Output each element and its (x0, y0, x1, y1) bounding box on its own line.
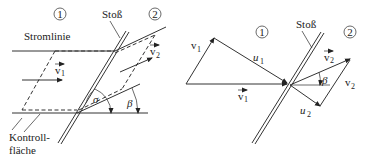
sigma-label: σ (93, 93, 99, 105)
u1-label: u 1 (253, 51, 264, 66)
left-control-volume-diagram: 1 2 Stoß Stromlinie v 1 v (9, 8, 166, 156)
upper-streamline-downstream (115, 27, 166, 51)
shock-line-b (255, 33, 324, 144)
svg-text:1: 1 (197, 45, 201, 54)
svg-text:1: 1 (260, 57, 264, 66)
control-surface-label-1: Kontroll- (9, 131, 50, 143)
u2-arrow (290, 85, 320, 106)
vec-v1-label: v 1 (238, 90, 248, 104)
control-surface-label-2: fläche (9, 144, 36, 156)
svg-text:u: u (253, 51, 259, 63)
svg-text:1: 1 (244, 95, 248, 104)
control-volume-top-right (115, 35, 155, 53)
svg-text:2: 2 (351, 82, 355, 91)
oblique-shock-diagram: 1 2 Stoß Stromlinie v 1 v (0, 0, 367, 161)
v1-vector-label: v 1 (55, 64, 65, 78)
beta-label-right: β (321, 74, 328, 86)
svg-text:2: 2 (307, 110, 311, 119)
v1-normal-label: v 1 (191, 39, 201, 54)
beta-angle-arc (319, 72, 320, 85)
vec-v2-label: v 2 (324, 51, 334, 65)
svg-text:2: 2 (156, 51, 160, 60)
beta-label-left: β (126, 97, 133, 109)
control-surface-leader-line (12, 118, 22, 130)
v2-arrow (120, 58, 152, 72)
region-1-label: 1 (57, 8, 63, 20)
shock-line-b (61, 32, 129, 144)
beta-angle-arc (132, 88, 138, 113)
u1-arrow (214, 38, 287, 83)
shock-leader-line (302, 31, 312, 48)
shock-label: Stoß (296, 18, 317, 30)
region-1-label: 1 (259, 26, 265, 38)
shock-line-a (58, 31, 126, 143)
v2-normal-label: v 2 (345, 76, 355, 91)
streamline-label: Stromlinie (24, 30, 71, 42)
shock-line-a (252, 32, 321, 143)
region-2-label: 2 (347, 26, 353, 38)
svg-text:u: u (300, 104, 306, 116)
u2-label: u 2 (300, 104, 311, 119)
control-volume-right (122, 35, 155, 89)
svg-text:1: 1 (61, 69, 65, 78)
control-surface-leader (24, 114, 40, 132)
shock-leader-line (110, 21, 120, 38)
right-velocity-triangle-diagram: 1 2 Stoß β v 1 u 1 v 1 (186, 18, 356, 144)
svg-text:2: 2 (330, 56, 334, 65)
shock-label: Stoß (102, 8, 123, 20)
region-2-label: 2 (152, 8, 158, 20)
